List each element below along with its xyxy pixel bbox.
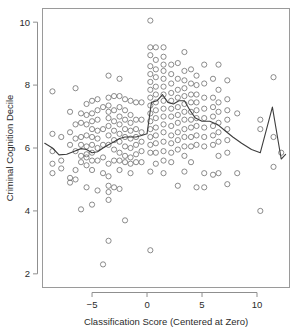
scatter-plot-figure: 246810 −50510 Classification Score (Cent… xyxy=(0,0,298,332)
y-tick-label: 2 xyxy=(25,268,30,279)
x-tick-label: −5 xyxy=(87,299,98,310)
x-tick-label: 10 xyxy=(252,299,263,310)
x-axis-title: Classification Score (Centered at Zero) xyxy=(84,316,248,327)
y-tick-label: 6 xyxy=(25,142,30,153)
y-tick-label: 8 xyxy=(25,79,30,90)
plot-canvas: 246810 −50510 Classification Score (Cent… xyxy=(0,0,298,332)
y-tick-label: 10 xyxy=(19,17,30,28)
x-tick-label: 0 xyxy=(144,299,149,310)
y-axis-title: Criminal Cognition Decile xyxy=(4,95,15,202)
y-tick-label: 4 xyxy=(25,205,30,216)
x-tick-label: 5 xyxy=(199,299,204,310)
